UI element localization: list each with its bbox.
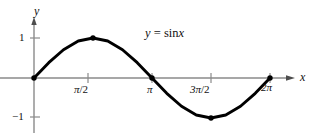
pi-over-2-rest: /2 (80, 83, 89, 95)
x-axis-arrowhead (286, 75, 295, 81)
marked-point (149, 75, 154, 80)
marked-point (90, 35, 95, 40)
marked-point (31, 75, 36, 80)
sine-curve-figure: y x 1 −1 π/2 π 3π/2 2π y = sinx (0, 0, 316, 133)
plot-canvas (0, 0, 316, 133)
x-tick-label-2pi: 2π (261, 82, 272, 93)
two-pi-glyph: 2π (261, 81, 272, 93)
equation-argument: x (178, 26, 184, 40)
x-tick-label-pi-over-2: π/2 (74, 84, 88, 95)
equation-lhs: y (145, 26, 151, 40)
equation-annotation: y = sinx (145, 27, 184, 40)
three-pi-glyph: 3π (190, 83, 201, 95)
x-axis-label: x (300, 71, 305, 83)
marked-point (208, 115, 213, 120)
x-tick-label-pi: π (147, 84, 153, 95)
y-axis-arrowhead (31, 17, 36, 25)
y-tick-label-1: 1 (19, 32, 25, 43)
y-tick-label-neg-1: −1 (12, 111, 24, 122)
equation-function-name: sin (164, 26, 179, 40)
three-pi-over-2-rest: /2 (201, 83, 210, 95)
pi-glyph: π (147, 83, 153, 95)
equation-equals: = (154, 26, 161, 40)
y-axis-label: y (34, 5, 39, 17)
x-tick-label-3pi-over-2: 3π/2 (190, 84, 210, 95)
marked-point (267, 75, 272, 80)
